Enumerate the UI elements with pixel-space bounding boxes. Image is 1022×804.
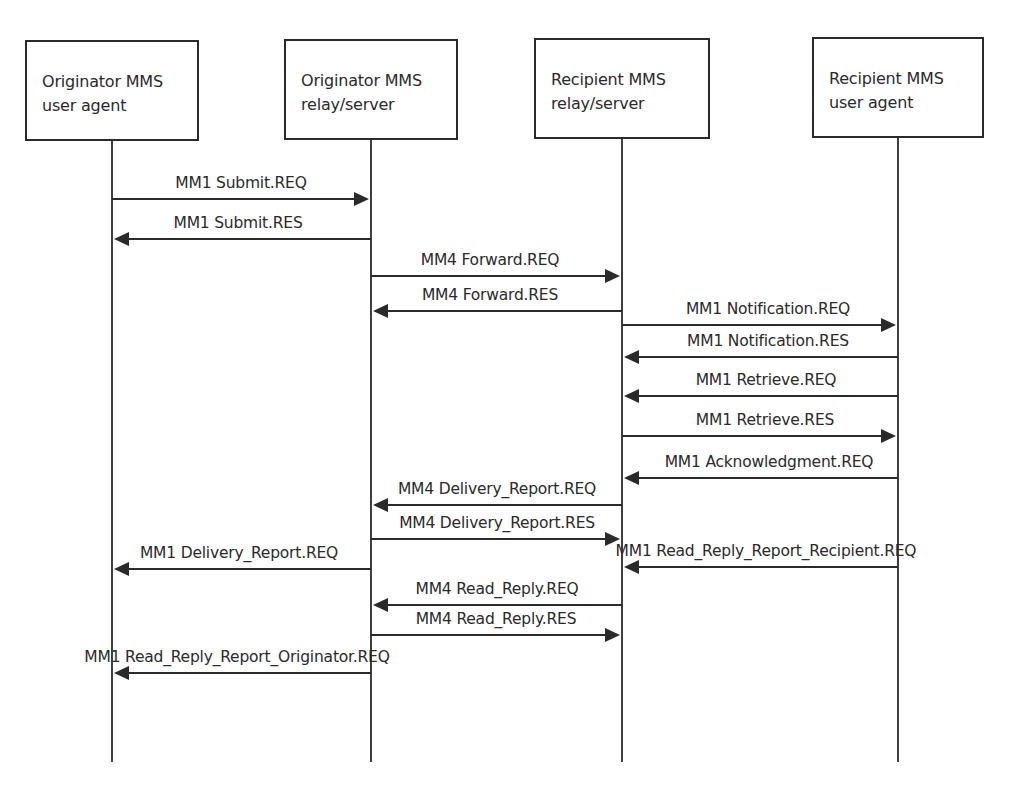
message-arrow: [371, 269, 620, 283]
message-arrow: [624, 560, 898, 574]
message-arrow: [624, 350, 898, 364]
participant-label: Recipient MMS relay/server: [551, 68, 666, 116]
arrowhead-left-icon: [373, 304, 388, 318]
sequence-diagram: Originator MMS user agentOriginator MMS …: [0, 0, 1022, 804]
message-label: MM1 Retrieve.REQ: [696, 371, 837, 389]
arrowhead-left-icon: [114, 562, 129, 576]
message-label: MM1 Read_Reply_Report_Recipient.REQ: [616, 542, 917, 560]
participant-box-orig-rs: Originator MMS relay/server: [284, 39, 458, 140]
participant-box-recip-rs: Recipient MMS relay/server: [534, 38, 710, 139]
message-label: MM1 Delivery_Report.REQ: [140, 544, 338, 562]
arrowhead-left-icon: [624, 350, 639, 364]
message-arrow: [373, 498, 622, 512]
message-label: MM4 Forward.RES: [422, 286, 558, 304]
participant-box-recip-ua: Recipient MMS user agent: [812, 37, 984, 138]
arrowhead-left-icon: [624, 471, 639, 485]
participant-label: Originator MMS relay/server: [301, 69, 422, 117]
message-arrow: [112, 192, 369, 206]
arrowhead-left-icon: [114, 666, 129, 680]
message-arrow: [624, 389, 898, 403]
message-label: MM1 Notification.RES: [687, 332, 849, 350]
message-arrow: [371, 532, 620, 546]
arrowhead-left-icon: [373, 498, 388, 512]
message-label: MM4 Forward.REQ: [421, 251, 560, 269]
arrowhead-left-icon: [114, 232, 129, 246]
arrowhead-left-icon: [624, 389, 639, 403]
message-label: MM1 Submit.RES: [173, 214, 302, 232]
message-label: MM4 Read_Reply.REQ: [415, 580, 578, 598]
arrowhead-left-icon: [624, 560, 639, 574]
message-label: MM1 Notification.REQ: [686, 300, 850, 318]
arrowhead-right-icon: [354, 192, 369, 206]
arrowhead-right-icon: [881, 429, 896, 443]
participant-label: Recipient MMS user agent: [829, 67, 944, 115]
arrowhead-right-icon: [881, 318, 896, 332]
message-arrow: [622, 429, 896, 443]
message-arrow: [622, 318, 896, 332]
message-arrow: [373, 304, 622, 318]
participant-label: Originator MMS user agent: [42, 70, 163, 118]
message-arrow: [114, 666, 371, 680]
arrowhead-left-icon: [373, 598, 388, 612]
message-arrow: [114, 562, 371, 576]
message-label: MM1 Submit.REQ: [175, 174, 306, 192]
arrowhead-right-icon: [605, 269, 620, 283]
message-label: MM1 Retrieve.RES: [696, 411, 834, 429]
message-label: MM4 Read_Reply.RES: [416, 610, 577, 628]
participant-box-orig-ua: Originator MMS user agent: [25, 40, 199, 141]
message-label: MM1 Read_Reply_Report_Originator.REQ: [84, 648, 389, 666]
message-label: MM4 Delivery_Report.REQ: [398, 480, 596, 498]
message-label: MM4 Delivery_Report.RES: [399, 514, 595, 532]
message-arrow: [624, 471, 898, 485]
message-label: MM1 Acknowledgment.REQ: [665, 453, 874, 471]
message-arrow: [114, 232, 371, 246]
arrowhead-right-icon: [605, 628, 620, 642]
message-arrow: [371, 628, 620, 642]
